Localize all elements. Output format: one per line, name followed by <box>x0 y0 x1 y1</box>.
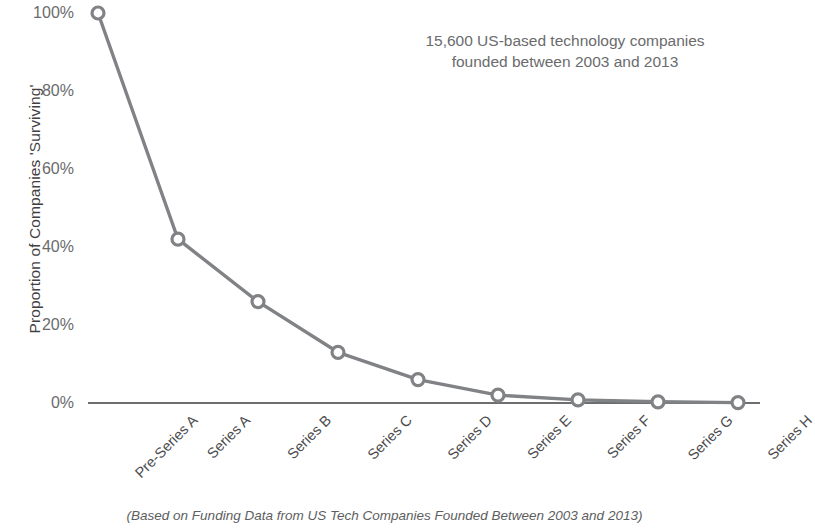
sample-size-annotation: 15,600 US-based technology companies fou… <box>390 31 740 73</box>
x-tick-label: Series H <box>764 412 815 463</box>
data-point-marker <box>92 7 104 19</box>
annotation-line-2: founded between 2003 and 2013 <box>390 52 740 73</box>
data-point-marker <box>252 296 264 308</box>
annotation-line-1: 15,600 US-based technology companies <box>390 31 740 52</box>
data-point-marker <box>412 374 424 386</box>
data-point-marker <box>572 394 584 406</box>
data-point-marker <box>492 389 504 401</box>
figure-caption: (Based on Funding Data from US Tech Comp… <box>0 508 769 523</box>
data-point-marker <box>732 397 744 409</box>
data-point-marker <box>172 233 184 245</box>
data-point-marker <box>652 396 664 408</box>
data-point-marker <box>332 346 344 358</box>
